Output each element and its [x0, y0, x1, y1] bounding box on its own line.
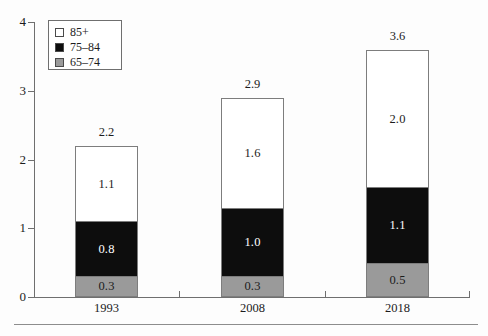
bar-segment-1993-85plus: 1.1 — [75, 146, 138, 222]
bar-segment-value: 0.3 — [244, 280, 260, 293]
bar-segment-2008-65-74: 0.3 — [221, 276, 284, 297]
y-tick-mark-2 — [28, 160, 34, 161]
legend-label: 85+ — [70, 26, 89, 38]
legend-item-65-74: 65–74 — [55, 55, 121, 69]
bar-total-label-2008: 2.9 — [221, 78, 284, 91]
bar-segment-2018-65-74: 0.5 — [366, 263, 429, 297]
bar-segment-value: 1.0 — [244, 236, 260, 249]
black-square-icon — [55, 43, 64, 52]
x-axis-label-2008: 2008 — [221, 302, 284, 315]
white-square-icon — [55, 28, 64, 37]
bar-segment-value: 0.5 — [389, 274, 405, 287]
bar-segment-value: 1.6 — [244, 147, 260, 160]
y-tick-mark-1 — [28, 228, 34, 229]
y-tick-label-1: 1 — [6, 221, 26, 234]
footer-divider — [14, 324, 478, 325]
bar-1993: 1.1 0.8 0.3 — [75, 146, 138, 297]
legend-item-85plus: 85+ — [55, 25, 121, 39]
bar-total-label-1993: 2.2 — [75, 126, 138, 139]
x-axis-label-2018: 2018 — [366, 302, 429, 315]
legend-label: 75–84 — [70, 41, 100, 53]
y-tick-label-0: 0 — [6, 290, 26, 303]
bar-segment-value: 1.1 — [98, 178, 114, 191]
legend-item-75-84: 75–84 — [55, 40, 121, 54]
x-axis-label-1993: 1993 — [75, 302, 138, 315]
bar-segment-value: 0.3 — [98, 280, 114, 293]
bar-2018: 2.0 1.1 0.5 — [366, 50, 429, 298]
y-tick-mark-3 — [28, 91, 34, 92]
gray-square-icon — [55, 58, 64, 67]
bar-segment-2018-75-84: 1.1 — [366, 187, 429, 263]
x-axis-line — [34, 297, 470, 298]
y-axis-line — [34, 22, 35, 298]
y-tick-mark-0 — [28, 297, 34, 298]
y-tick-label-4: 4 — [6, 15, 26, 28]
bar-segment-2018-85plus: 2.0 — [366, 50, 429, 188]
x-tick-mark-3 — [469, 291, 470, 298]
legend-label: 65–74 — [70, 56, 100, 68]
bar-segment-1993-75-84: 0.8 — [75, 221, 138, 276]
bar-segment-value: 2.0 — [389, 113, 405, 126]
bar-segment-1993-65-74: 0.3 — [75, 276, 138, 297]
chart-legend: 85+ 75–84 65–74 — [48, 20, 122, 70]
y-tick-mark-4 — [28, 22, 34, 23]
bar-2008: 1.6 1.0 0.3 — [221, 98, 284, 297]
x-tick-mark-1 — [179, 291, 180, 298]
bar-total-label-2018: 3.6 — [366, 30, 429, 43]
x-tick-mark-2 — [325, 291, 326, 298]
bar-segment-value: 1.1 — [389, 219, 405, 232]
y-tick-label-3: 3 — [6, 84, 26, 97]
bar-segment-value: 0.8 — [98, 243, 114, 256]
bar-segment-2008-75-84: 1.0 — [221, 208, 284, 277]
bar-segment-2008-85plus: 1.6 — [221, 98, 284, 208]
y-tick-label-2: 2 — [6, 153, 26, 166]
stacked-bar-chart-figure: 4 3 2 1 0 1.1 0.8 0.3 2.2 1993 1.6 1.0 — [0, 0, 488, 336]
